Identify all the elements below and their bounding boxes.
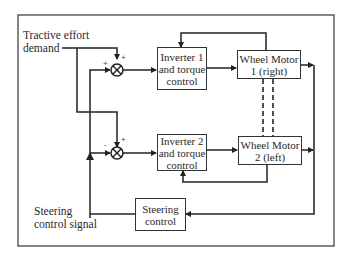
- motor2-line1: Wheel Motor: [241, 139, 300, 151]
- steering-line2: control: [142, 215, 179, 227]
- steering-signal-label: Steering control signal: [34, 205, 97, 230]
- sum1-sign-top: +: [121, 53, 126, 62]
- sum2-sign-left: -: [104, 140, 107, 149]
- steering-signal-line1: Steering: [34, 205, 97, 218]
- steering-control-block: Steering control: [135, 198, 186, 231]
- inverter2-line1: Inverter 2: [159, 135, 206, 147]
- tractive-effort-label: Tractive effort demand: [23, 29, 89, 54]
- inverter1-line1: Inverter 1: [159, 51, 206, 63]
- motor2-block: Wheel Motor 2 (left): [238, 136, 302, 165]
- sum1-sign-left: +: [103, 59, 108, 68]
- sum2-sign-top: +: [121, 135, 126, 144]
- inverter2-block: Inverter 2 and torque control: [157, 134, 207, 171]
- inverter2-line3: control: [159, 159, 206, 171]
- motor2-line2: 2 (left): [241, 151, 300, 163]
- link-te-to-sum2: [77, 48, 117, 147]
- inverter2-line2: and torque: [159, 147, 206, 159]
- inverter1-line3: control: [159, 75, 206, 87]
- motor1-line2: 1 (right): [240, 65, 299, 77]
- tractive-effort-line1: Tractive effort: [23, 29, 89, 42]
- steering-signal-line2: control signal: [34, 218, 97, 231]
- inverter1-line2: and torque: [159, 63, 206, 75]
- motor1-block: Wheel Motor 1 (right): [237, 50, 301, 79]
- sum1-junction: [111, 64, 123, 76]
- motor1-line1: Wheel Motor: [240, 53, 299, 65]
- inverter1-block: Inverter 1 and torque control: [157, 47, 207, 90]
- sum2-junction: [111, 147, 123, 159]
- tractive-effort-line2: demand: [23, 42, 89, 55]
- steering-line1: Steering: [142, 203, 179, 215]
